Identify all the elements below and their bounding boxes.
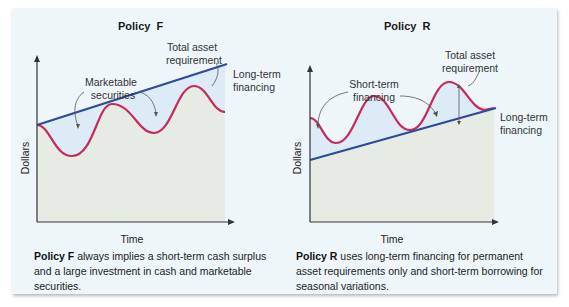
caption-bold: Policy F (34, 250, 74, 262)
policy-r-panel: Policy R Short-t (284, 8, 557, 294)
long-term-label-1: Long-term (500, 111, 548, 123)
callout-arrow-icon (318, 92, 348, 126)
short-term-label-1: Short-term (349, 78, 399, 90)
y-axis-arrow-icon (307, 65, 313, 72)
policy-r-caption: Policy R uses long-term financing for pe… (296, 249, 546, 294)
policy-f-panel: Policy F Marketable securities To (12, 8, 284, 294)
permanent-asset-area (310, 108, 494, 222)
total-asset-label-2: requirement (442, 62, 498, 74)
total-asset-label-1: Total asset (167, 41, 217, 53)
short-term-label-2: financing (353, 91, 395, 103)
figure-card: Policy F Marketable securities To (12, 8, 557, 294)
y-axis-label: Dollars (291, 142, 303, 175)
policy-f-caption: Policy F always implies a short-term cas… (34, 249, 284, 294)
caption-bold: Policy R (296, 250, 337, 262)
total-asset-label-2: requirement (166, 54, 222, 66)
marketable-label-2: securities (91, 89, 135, 101)
long-term-label-2: financing (233, 81, 275, 93)
x-axis-arrow-icon (492, 219, 499, 225)
long-term-label-2: financing (500, 124, 542, 136)
long-term-label-1: Long-term (233, 68, 281, 80)
x-axis-label: Time (381, 233, 404, 245)
marketable-label-1: Marketable (85, 76, 137, 88)
total-asset-label-1: Total asset (445, 49, 495, 61)
x-axis-arrow-icon (228, 219, 235, 225)
y-axis-arrow-icon (34, 55, 40, 62)
y-axis-label: Dollars (19, 142, 31, 175)
x-axis-label: Time (121, 233, 144, 245)
